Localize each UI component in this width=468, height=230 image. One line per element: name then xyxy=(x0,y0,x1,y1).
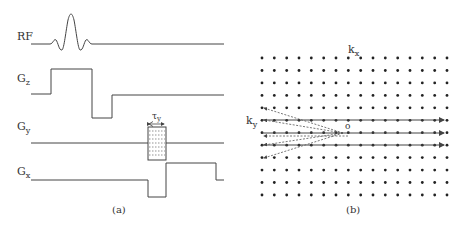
rf-label: RF xyxy=(17,30,33,43)
k-space-sample-point xyxy=(285,82,288,85)
k-space-sample-point xyxy=(335,169,338,172)
k-space-sample-point xyxy=(372,156,375,159)
k-space-sample-point xyxy=(285,156,288,159)
k-space-sample-point xyxy=(298,69,301,72)
k-space-sample-point xyxy=(421,181,424,184)
k-space-sample-point xyxy=(433,57,436,60)
k-space-sample-point xyxy=(409,106,412,109)
k-space-sample-point xyxy=(285,57,288,60)
k-space-sample-point xyxy=(446,131,449,134)
ky-label: ky xyxy=(246,114,258,129)
k-space-sample-point xyxy=(384,181,387,184)
k-space-sample-point xyxy=(273,106,276,109)
gx-label: Gx xyxy=(17,165,31,180)
k-space-sample-point xyxy=(359,94,362,97)
k-space-sample-point xyxy=(409,82,412,85)
k-space-sample-point xyxy=(384,57,387,60)
k-space-sample-point xyxy=(285,69,288,72)
k-space-sample-point xyxy=(298,156,301,159)
k-space-sample-point xyxy=(298,181,301,184)
k-space-sample-point xyxy=(421,194,424,197)
k-space-sample-point xyxy=(322,57,325,60)
k-space-sample-point xyxy=(298,169,301,172)
k-space-sample-point xyxy=(421,106,424,109)
k-space-sample-point xyxy=(409,94,412,97)
k-space-sample-point xyxy=(433,156,436,159)
panel-b-caption: (b) xyxy=(346,204,360,215)
k-space-sample-point xyxy=(298,94,301,97)
k-space-sample-point xyxy=(310,194,313,197)
panel-b-k-space: kx ky o (b) xyxy=(246,43,448,215)
k-space-sample-point xyxy=(409,57,412,60)
k-space-sample-point xyxy=(372,82,375,85)
k-space-sample-point xyxy=(409,181,412,184)
k-space-sample-point xyxy=(273,194,276,197)
k-space-sample-point xyxy=(310,106,313,109)
phase-encode-table-block xyxy=(148,127,166,160)
k-space-sample-point xyxy=(396,82,399,85)
k-space-sample-point xyxy=(446,69,449,72)
k-space-sample-point xyxy=(273,57,276,60)
k-space-sample-point xyxy=(310,57,313,60)
k-space-sample-point xyxy=(310,94,313,97)
k-space-sample-point xyxy=(261,82,264,85)
tau-y-label: τy xyxy=(152,111,161,123)
k-space-sample-point xyxy=(372,57,375,60)
k-space-sample-point xyxy=(446,144,449,147)
k-space-sample-point xyxy=(347,106,350,109)
k-space-sample-point xyxy=(335,181,338,184)
k-space-sample-point xyxy=(446,106,449,109)
k-space-sample-point xyxy=(421,169,424,172)
k-space-sample-point xyxy=(322,169,325,172)
k-space-sample-point xyxy=(322,69,325,72)
k-space-sample-point xyxy=(261,194,264,197)
k-space-sample-point xyxy=(335,194,338,197)
k-space-sample-point xyxy=(359,82,362,85)
k-space-sample-point xyxy=(433,169,436,172)
k-space-sample-point xyxy=(273,69,276,72)
k-space-sample-point xyxy=(273,82,276,85)
k-space-sample-point xyxy=(322,82,325,85)
k-space-sample-point xyxy=(273,156,276,159)
k-space-sample-point xyxy=(421,69,424,72)
k-space-sample-point xyxy=(359,106,362,109)
k-space-sample-point xyxy=(347,82,350,85)
k-space-sample-point xyxy=(298,194,301,197)
k-space-sample-point xyxy=(261,169,264,172)
k-space-sample-point xyxy=(359,169,362,172)
rf-pulse-waveform xyxy=(31,14,224,50)
k-space-sample-point xyxy=(261,94,264,97)
k-space-sample-point xyxy=(409,194,412,197)
k-space-sample-point xyxy=(446,156,449,159)
k-space-sample-point xyxy=(322,156,325,159)
k-space-sample-point xyxy=(359,194,362,197)
k-space-sample-point xyxy=(446,82,449,85)
k-space-sample-point xyxy=(384,106,387,109)
k-space-sample-point xyxy=(421,94,424,97)
k-space-sample-point xyxy=(335,69,338,72)
k-space-sample-point xyxy=(335,57,338,60)
k-space-sample-point xyxy=(261,57,264,60)
k-space-sample-point xyxy=(261,106,264,109)
k-space-sample-point xyxy=(285,194,288,197)
panel-a-pulse-sequence: RF Gz Gy τy Gx (a) xyxy=(17,14,224,215)
k-space-sample-point xyxy=(347,156,350,159)
k-space-sample-point xyxy=(421,82,424,85)
k-space-sample-point xyxy=(396,94,399,97)
k-space-sample-point xyxy=(335,94,338,97)
panel-a-caption: (a) xyxy=(112,204,126,215)
k-space-sample-point xyxy=(359,57,362,60)
k-space-sample-point xyxy=(372,94,375,97)
k-space-sample-point xyxy=(384,94,387,97)
k-space-sample-point xyxy=(396,169,399,172)
k-space-sample-point xyxy=(310,156,313,159)
k-space-sample-point xyxy=(347,181,350,184)
k-space-sample-point xyxy=(372,69,375,72)
gy-label: Gy xyxy=(17,120,31,135)
k-space-sample-point xyxy=(384,69,387,72)
k-space-sample-point xyxy=(298,57,301,60)
k-space-sample-point xyxy=(347,94,350,97)
k-space-sample-point xyxy=(347,194,350,197)
k-space-sample-point xyxy=(446,169,449,172)
k-space-sample-point xyxy=(396,194,399,197)
